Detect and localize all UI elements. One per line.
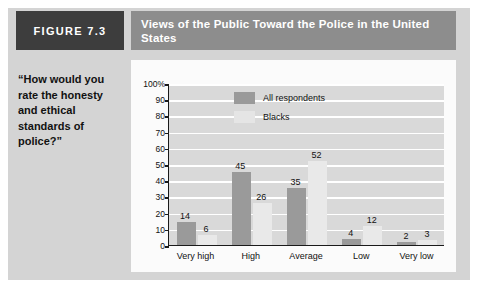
y-tick-mark <box>165 133 169 135</box>
y-tick-label: 30 <box>131 192 165 202</box>
x-axis-label-low: Low <box>353 251 370 261</box>
figure-quote: “How would you rate the honesty and ethi… <box>18 72 123 150</box>
x-axis-label-high: High <box>242 251 261 261</box>
legend-label: Blacks <box>263 112 290 122</box>
legend-swatch-icon <box>234 111 255 123</box>
gridline <box>169 149 444 151</box>
bar-low-all-respondents <box>342 239 361 245</box>
y-tick-label: 80 <box>131 111 165 121</box>
figure-title: Views of the Public Toward the Police in… <box>131 17 456 45</box>
y-tick-label: 70 <box>131 128 165 138</box>
legend-item-all-respondents: All respondents <box>234 92 325 104</box>
y-tick-mark <box>165 214 169 216</box>
y-tick-mark <box>165 84 169 86</box>
figure-root: FIGURE 7.3 Views of the Public Toward th… <box>0 0 478 295</box>
figure-tag-label: FIGURE 7.3 <box>34 25 107 37</box>
bar-high-all-respondents <box>232 172 251 245</box>
bar-value-label: 12 <box>367 215 377 225</box>
gridline <box>169 84 444 86</box>
y-tick-label: 60 <box>131 144 165 154</box>
y-tick-mark <box>165 230 169 232</box>
gridline <box>169 133 444 135</box>
y-tick-mark <box>165 246 169 248</box>
bar-value-label: 45 <box>235 161 245 171</box>
x-axis-label-very-high: Very high <box>177 251 215 261</box>
bar-average-all-respondents <box>287 188 306 245</box>
bar-very-low-all-respondents <box>397 242 416 245</box>
legend-label: All respondents <box>263 93 325 103</box>
bar-value-label: 35 <box>290 177 300 187</box>
y-tick-label: 40 <box>131 176 165 186</box>
x-axis-label-average: Average <box>289 251 322 261</box>
bar-average-blacks <box>308 161 327 245</box>
gridline <box>169 165 444 167</box>
figure-title-bar: Views of the Public Toward the Police in… <box>131 11 456 50</box>
chart-legend: All respondentsBlacks <box>234 92 325 130</box>
bar-value-label: 26 <box>256 192 266 202</box>
gridline <box>169 214 444 216</box>
bar-very-low-blacks <box>418 240 437 245</box>
bar-low-blacks <box>363 226 382 245</box>
y-tick-label: 10 <box>131 225 165 235</box>
bar-value-label: 3 <box>424 229 429 239</box>
bar-value-label: 52 <box>311 150 321 160</box>
chart-area: 0102030405060708090100% All respondentsB… <box>131 60 456 272</box>
y-tick-mark <box>165 149 169 151</box>
legend-swatch-icon <box>234 92 255 104</box>
y-tick-mark <box>165 116 169 118</box>
y-tick-mark <box>165 100 169 102</box>
y-tick-mark <box>165 165 169 167</box>
bar-value-label: 2 <box>403 231 408 241</box>
bar-value-label: 6 <box>204 224 209 234</box>
y-tick-label: 90 <box>131 95 165 105</box>
y-tick-label: 0 <box>131 241 165 251</box>
bar-high-blacks <box>253 203 272 245</box>
y-tick-mark <box>165 181 169 183</box>
bar-value-label: 4 <box>348 228 353 238</box>
bar-very-high-blacks <box>198 235 217 245</box>
bar-very-high-all-respondents <box>177 222 196 245</box>
y-tick-label: 50 <box>131 160 165 170</box>
figure-tag: FIGURE 7.3 <box>16 11 124 50</box>
y-tick-label: 100% <box>131 79 165 89</box>
legend-item-blacks: Blacks <box>234 111 325 123</box>
y-tick-mark <box>165 197 169 199</box>
gridline <box>169 197 444 199</box>
x-axis-label-very-low: Very low <box>399 251 433 261</box>
gridline <box>169 181 444 183</box>
bar-value-label: 14 <box>180 211 190 221</box>
y-axis: 0102030405060708090100% <box>131 84 165 246</box>
y-tick-label: 20 <box>131 209 165 219</box>
